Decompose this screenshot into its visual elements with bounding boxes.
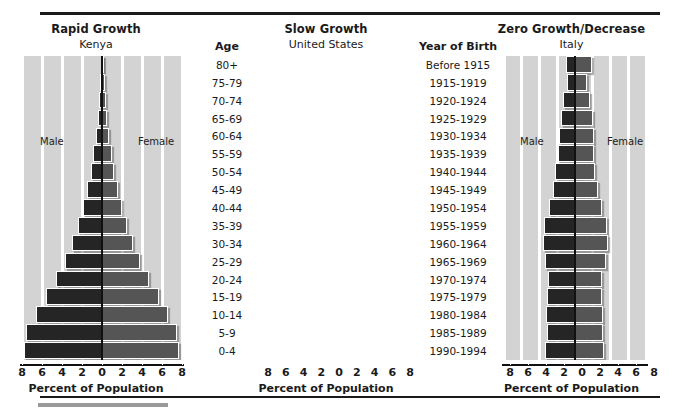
- bar-female: [575, 92, 590, 109]
- legend-label-female: Female: [607, 136, 643, 147]
- bar-female: [102, 128, 109, 145]
- bar-female: [102, 288, 159, 305]
- bar-female: [102, 271, 149, 288]
- x-axis-tick-mark: [285, 360, 286, 365]
- x-axis-tick-label: 4: [610, 366, 626, 379]
- panel-slow-growth: Slow Growth United States MaleFemale 864…: [236, 0, 416, 414]
- x-axis-tick-label: 8: [646, 366, 662, 379]
- x-axis-title: Percent of Population: [470, 382, 673, 395]
- bar-male: [547, 324, 575, 341]
- bar-female: [102, 306, 168, 323]
- bar-male: [26, 324, 102, 341]
- panel-title: Slow Growth: [236, 22, 416, 36]
- x-axis-tick-label: 6: [628, 366, 644, 379]
- x-axis-tick-mark: [546, 360, 547, 365]
- bar-female: [575, 324, 603, 341]
- x-axis-tick-mark: [122, 360, 123, 365]
- x-axis-tick-label: 2: [114, 366, 130, 379]
- bar-male: [555, 163, 575, 180]
- bar-female: [575, 56, 592, 73]
- bar-male: [544, 217, 575, 234]
- bar-female: [102, 145, 112, 162]
- x-axis-tick-label: 4: [134, 366, 150, 379]
- bar-male: [558, 145, 575, 162]
- bar-female: [102, 324, 177, 341]
- x-axis-tick-label: 6: [278, 366, 294, 379]
- bar-female: [102, 217, 127, 234]
- x-axis-title: Percent of Population: [236, 382, 416, 395]
- x-axis-tick-mark: [42, 360, 43, 365]
- x-axis-tick-mark: [374, 360, 375, 365]
- bar-male: [545, 253, 575, 270]
- x-axis-tick-label: 0: [331, 366, 347, 379]
- bar-male: [46, 288, 102, 305]
- bar-male: [546, 306, 575, 323]
- x-axis-tick-mark: [582, 360, 583, 365]
- bar-female: [575, 342, 604, 359]
- x-axis-tick-label: 8: [260, 366, 276, 379]
- bar-male: [543, 235, 575, 252]
- x-axis-tick-mark: [392, 360, 393, 365]
- bar-male: [65, 253, 102, 270]
- x-axis-tick-label: 2: [556, 366, 572, 379]
- zero-axis-line: [574, 56, 576, 360]
- bar-male: [72, 235, 102, 252]
- x-axis-tick-label: 0: [94, 366, 110, 379]
- zero-axis-line: [101, 56, 103, 360]
- x-axis-tick-mark: [564, 360, 565, 365]
- bar-female: [102, 342, 179, 359]
- bar-female: [575, 217, 607, 234]
- bar-female: [575, 145, 594, 162]
- legend-label-male: Male: [520, 136, 544, 147]
- bar-male: [559, 128, 575, 145]
- bar-female: [575, 199, 602, 216]
- x-axis-tick-mark: [182, 360, 183, 365]
- x-axis-tick-mark: [654, 360, 655, 365]
- x-axis-tick-label: 2: [592, 366, 608, 379]
- bar-male: [561, 110, 575, 127]
- x-axis-tick-mark: [22, 360, 23, 365]
- x-axis-tick-mark: [62, 360, 63, 365]
- bar-female: [102, 181, 118, 198]
- bar-male: [553, 181, 575, 198]
- bar-female: [575, 288, 602, 305]
- panel-subtitle: Italy: [470, 38, 673, 51]
- bar-female: [575, 181, 598, 198]
- x-axis-tick-mark: [102, 360, 103, 365]
- panel-title: Zero Growth/Decrease: [470, 22, 673, 36]
- x-axis-tick-label: 6: [384, 366, 400, 379]
- x-axis-tick-label: 4: [367, 366, 383, 379]
- bar-male: [83, 199, 102, 216]
- bar-female: [575, 110, 593, 127]
- x-axis-tick-mark: [162, 360, 163, 365]
- bar-male: [549, 199, 575, 216]
- x-axis-tick-label: 2: [74, 366, 90, 379]
- x-axis-tick-label: 2: [349, 366, 365, 379]
- x-axis-tick-label: 8: [14, 366, 30, 379]
- pyramid-plot-united-states: MaleFemale: [504, 56, 646, 360]
- bar-male: [548, 271, 575, 288]
- x-axis-tick-mark: [618, 360, 619, 365]
- x-axis-tick-mark: [356, 360, 357, 365]
- bar-female: [102, 199, 122, 216]
- legend-label-male: Male: [40, 136, 64, 147]
- bar-male: [87, 181, 102, 198]
- bar-female: [102, 110, 107, 127]
- bar-female: [575, 163, 595, 180]
- bar-male: [24, 342, 102, 359]
- bar-female: [575, 128, 594, 145]
- x-axis-tick-mark: [600, 360, 601, 365]
- x-axis-title: Percent of Population: [0, 382, 192, 395]
- bar-female: [575, 253, 606, 270]
- x-axis-tick-mark: [636, 360, 637, 365]
- x-axis-tick-mark: [321, 360, 322, 365]
- bar-female: [575, 74, 587, 91]
- panel-subtitle: United States: [236, 38, 416, 51]
- x-axis-tick-label: 2: [313, 366, 329, 379]
- x-axis-tick-label: 6: [34, 366, 50, 379]
- panel-rapid-growth: Rapid Growth Kenya MaleFemale 864202468 …: [0, 0, 192, 414]
- x-axis-tick-label: 6: [520, 366, 536, 379]
- x-axis-tick-label: 4: [296, 366, 312, 379]
- x-axis-tick-label: 8: [502, 366, 518, 379]
- panel-title: Rapid Growth: [0, 22, 192, 36]
